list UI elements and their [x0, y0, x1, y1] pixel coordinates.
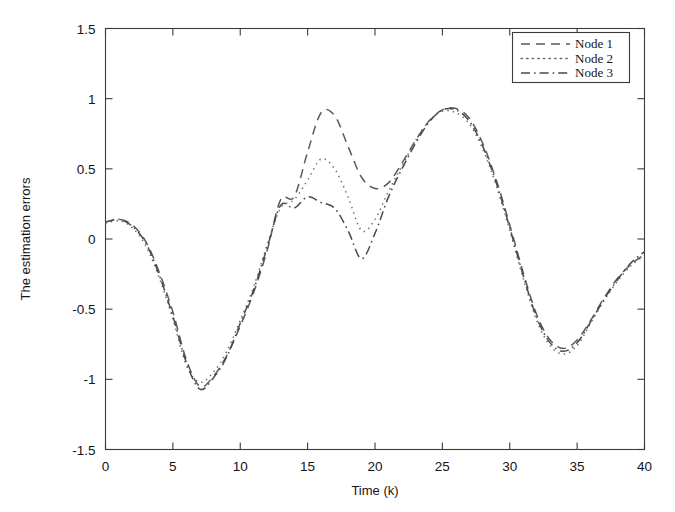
x-tick-label: 25 [435, 459, 450, 474]
y-tick-label: 0.5 [77, 162, 96, 177]
y-tick-label: -0.5 [72, 302, 95, 317]
x-tick-label: 0 [102, 459, 110, 474]
legend-label-2: Node 2 [575, 51, 613, 66]
x-tick-label: 10 [233, 459, 248, 474]
x-tick-label: 5 [169, 459, 177, 474]
legend-label-1: Node 1 [575, 36, 613, 51]
x-axis-title: Time (k) [351, 483, 398, 498]
estimation-errors-line-chart: 0510152025303540 -1.5-1-0.500.511.5 Time… [0, 0, 675, 512]
legend-label-3: Node 3 [575, 65, 613, 80]
y-tick-label: 1 [88, 92, 96, 107]
chart-figure: 0510152025303540 -1.5-1-0.500.511.5 Time… [0, 0, 675, 512]
y-tick-label: 1.5 [77, 22, 96, 37]
x-tick-label: 30 [502, 459, 517, 474]
y-tick-label: 0 [88, 232, 96, 247]
y-tick-label: -1 [83, 372, 95, 387]
x-tick-label: 20 [367, 459, 382, 474]
x-tick-label: 40 [637, 459, 652, 474]
legend: Node 1Node 2Node 3 [513, 33, 630, 83]
y-tick-label: -1.5 [72, 443, 95, 458]
y-axis-title: The estimation errors [18, 177, 33, 300]
x-tick-label: 35 [570, 459, 585, 474]
x-tick-label: 15 [300, 459, 315, 474]
